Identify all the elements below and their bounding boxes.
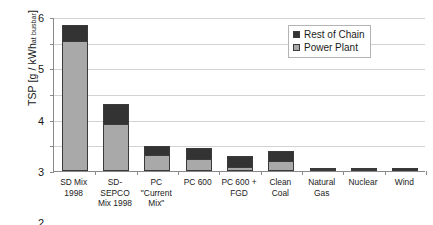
bar-segment-rest-of-chain[interactable] xyxy=(268,151,294,161)
bar-stack[interactable] xyxy=(351,168,377,172)
x-axis-label: SD Mix1998 xyxy=(53,177,94,198)
x-axis-label-line: Wind xyxy=(395,177,414,187)
x-axis-label-line: "Current xyxy=(141,188,172,198)
bar-stack[interactable] xyxy=(268,151,294,171)
bar-stack[interactable] xyxy=(310,168,336,172)
x-axis-label: Nuclear xyxy=(342,177,383,188)
bar-segment-rest-of-chain[interactable] xyxy=(186,148,212,159)
x-axis-label-line: Mix 1998 xyxy=(98,198,132,208)
bar-stack[interactable] xyxy=(103,104,129,171)
x-axis-label-line: SEPCO xyxy=(100,188,129,198)
x-axis-tick xyxy=(302,171,303,175)
y-axis-title-subscript: at busbar xyxy=(30,13,37,43)
bar-slot xyxy=(95,18,136,171)
x-axis-tick xyxy=(426,171,427,175)
x-axis-tick xyxy=(261,171,262,175)
x-axis-label: Wind xyxy=(384,177,425,188)
x-axis-label-line: PC 600 xyxy=(184,177,212,187)
x-axis-label: NaturalGas xyxy=(301,177,342,198)
y-axis-tick: 0 xyxy=(50,172,54,173)
chart-legend: Rest of Chain Power Plant xyxy=(288,25,371,58)
bar-segment-rest-of-chain[interactable] xyxy=(227,156,253,167)
x-axis-label: PC"CurrentMix" xyxy=(136,177,177,209)
bar-stack[interactable] xyxy=(144,146,170,171)
y-axis-title-bracket: ] xyxy=(26,10,38,13)
bar-chart: TSP [g / kWhat busbar] 0123456 SD Mix199… xyxy=(0,0,433,225)
legend-label-power-plant: Power Plant xyxy=(304,42,358,53)
bar-stack[interactable] xyxy=(186,148,212,171)
bar-slot xyxy=(178,18,219,171)
bar-segment-power-plant[interactable] xyxy=(351,169,377,171)
legend-swatch-power-plant xyxy=(293,44,300,51)
bar-segment-power-plant[interactable] xyxy=(103,124,129,171)
x-axis-label: CleanCoal xyxy=(260,177,301,198)
bar-segment-rest-of-chain[interactable] xyxy=(62,25,88,42)
legend-item-power-plant: Power Plant xyxy=(293,41,365,54)
y-axis-tick-label: 4 xyxy=(38,115,44,127)
x-axis-label: PC 600 xyxy=(177,177,218,188)
bar-slot xyxy=(54,18,95,171)
legend-label-rest-of-chain: Rest of Chain xyxy=(304,29,365,40)
bar-stack[interactable] xyxy=(62,25,88,171)
bar-segment-rest-of-chain[interactable] xyxy=(103,104,129,123)
x-axis-label: SD-SEPCOMix 1998 xyxy=(94,177,135,209)
y-axis-tick-label: 6 xyxy=(38,12,44,24)
x-axis-label-line: Coal xyxy=(272,188,289,198)
y-axis-tick-label: 3 xyxy=(38,166,44,178)
y-axis-tick-label: 2 xyxy=(38,217,44,225)
x-axis-tick xyxy=(95,171,96,175)
bar-slot xyxy=(385,18,426,171)
x-axis-label-line: Mix" xyxy=(148,198,164,208)
bar-segment-rest-of-chain[interactable] xyxy=(392,168,418,171)
legend-item-rest-of-chain: Rest of Chain xyxy=(293,28,365,41)
x-axis-label-line: Nuclear xyxy=(349,177,378,187)
x-axis-label-line: SD- xyxy=(108,177,122,187)
x-axis-label-line: Clean xyxy=(269,177,291,187)
x-axis-label-line: PC 600 + xyxy=(221,177,256,187)
x-axis-tick xyxy=(219,171,220,175)
x-axis-label-line: FGD xyxy=(230,188,248,198)
legend-swatch-rest-of-chain xyxy=(293,31,300,38)
bar-stack[interactable] xyxy=(392,168,418,171)
x-axis-label-line: SD Mix xyxy=(60,177,87,187)
bar-segment-power-plant[interactable] xyxy=(186,159,212,171)
x-axis-tick xyxy=(137,171,138,175)
bar-segment-power-plant[interactable] xyxy=(144,155,170,171)
x-axis-label: PC 600 +FGD xyxy=(218,177,259,198)
bar-segment-power-plant[interactable] xyxy=(268,161,294,171)
bar-segment-rest-of-chain[interactable] xyxy=(144,146,170,155)
bar-slot xyxy=(219,18,260,171)
bar-segment-power-plant[interactable] xyxy=(227,167,253,171)
x-axis-label-line: Gas xyxy=(314,188,329,198)
x-axis-tick xyxy=(178,171,179,175)
x-axis-tick xyxy=(343,171,344,175)
y-axis-title: TSP [g / kWhat busbar] xyxy=(26,0,38,138)
x-axis-label-line: PC xyxy=(151,177,163,187)
bar-slot xyxy=(137,18,178,171)
bar-stack[interactable] xyxy=(227,156,253,171)
x-axis-label-line: Natural xyxy=(308,177,335,187)
x-axis-label-line: 1998 xyxy=(64,188,83,198)
bar-segment-power-plant[interactable] xyxy=(310,169,336,171)
bar-segment-power-plant[interactable] xyxy=(62,41,88,171)
x-axis-tick xyxy=(385,171,386,175)
y-axis-tick-label: 5 xyxy=(38,63,44,75)
y-axis-title-main: TSP [g / kWh xyxy=(26,43,38,106)
x-axis-labels: SD Mix1998SD-SEPCOMix 1998PC"CurrentMix"… xyxy=(53,177,425,223)
